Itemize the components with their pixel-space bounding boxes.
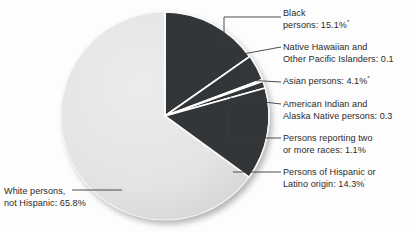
pie-label-white: White persons, not Hispanic: 65.8%: [4, 186, 86, 209]
footnote-marker-hispanic: ': [364, 178, 365, 184]
pie-label-asian: Asian persons: 4.1%*: [283, 76, 370, 88]
pie-label-hispanic: Persons of Hispanic or Latino origin: 14…: [283, 167, 376, 190]
pie-label-black: Black persons: 15.1%*: [283, 8, 349, 31]
pie-label-black-line2: persons: 15.1%*: [283, 20, 349, 32]
pie-label-hispanic-line1: Persons of Hispanic or: [283, 167, 376, 177]
pie-label-asian-line1: Asian persons: 4.1%: [283, 76, 367, 86]
leader-line-native-hawaiian: [243, 47, 281, 54]
pie-label-black-line1: Black: [283, 8, 306, 18]
pie-label-two-or-more-races-line1: Persons reporting two: [283, 133, 373, 143]
pie-label-native-hawaiian-line1: Native Hawaiian and: [283, 42, 367, 52]
pie-label-two-or-more-races: Persons reporting two or more races: 1.1…: [283, 133, 373, 156]
pie-label-white-line1: White persons,: [4, 186, 65, 196]
footnote-marker-black: *: [347, 19, 349, 25]
pie-label-two-or-more-races-line2: or more races: 1.1%: [283, 145, 373, 157]
pie-chart-figure: White persons, not Hispanic: 65.8% Black…: [0, 0, 414, 232]
pie-label-native-hawaiian: Native Hawaiian and Other Pacific Island…: [283, 42, 394, 65]
pie-label-native-hawaiian-line2: Other Pacific Islanders: 0.1: [283, 54, 394, 66]
pie-label-hispanic-line2: Latino origin: 14.3%': [283, 179, 376, 191]
footnote-marker-asian: *: [367, 75, 369, 81]
pie-label-american-indian-line1: American Indian and: [283, 99, 367, 109]
pie-label-white-line2: not Hispanic: 65.8%: [4, 198, 86, 210]
pie-label-american-indian-line2: Alaska Native persons: 0.3: [283, 111, 392, 123]
pie-label-american-indian: American Indian and Alaska Native person…: [283, 99, 392, 122]
